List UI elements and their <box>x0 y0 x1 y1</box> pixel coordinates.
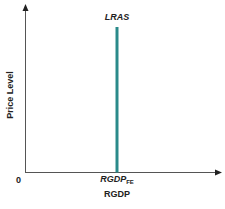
full-employment-rgdp-label: RGDPFE <box>100 174 134 185</box>
y-axis-label: Price Level <box>5 71 15 119</box>
y-axis-arrow-icon <box>23 4 29 11</box>
x-axis-label: RGDP <box>104 189 130 199</box>
lras-label: LRAS <box>105 12 130 22</box>
fe-label-subscript: FE <box>126 179 134 185</box>
origin-label: 0 <box>16 175 21 185</box>
fe-label-main: RGDP <box>100 174 126 184</box>
x-axis-arrow-icon <box>215 170 222 176</box>
